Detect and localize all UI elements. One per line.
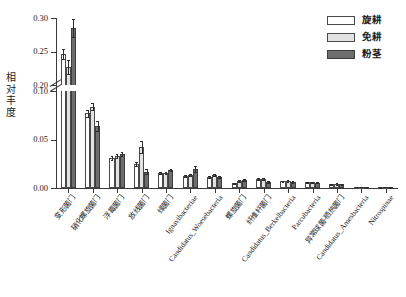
error-bar-cap bbox=[111, 160, 114, 161]
legend-label: 免耕 bbox=[362, 32, 382, 42]
bar bbox=[168, 170, 173, 188]
y-tick-label: 0.00 bbox=[3, 184, 48, 193]
error-bar-cap bbox=[96, 121, 99, 122]
y-tick bbox=[51, 188, 56, 189]
x-tick bbox=[239, 189, 240, 193]
error-bar-cap bbox=[257, 178, 260, 179]
x-tick-label: 绿菌门 bbox=[156, 194, 175, 215]
legend-item: 旋耕 bbox=[327, 13, 401, 27]
error-bar-cap bbox=[389, 188, 392, 189]
legend-item: 免耕 bbox=[327, 30, 401, 44]
legend-item: 粉茎 bbox=[327, 47, 401, 61]
error-bar-cap bbox=[292, 183, 295, 184]
error-bar-cap bbox=[140, 153, 143, 154]
error-bar-cap bbox=[86, 110, 89, 111]
error-bar-cap bbox=[62, 59, 65, 60]
error-bar-cap bbox=[311, 183, 314, 184]
x-tick bbox=[288, 189, 289, 193]
y-axis-line bbox=[56, 18, 57, 188]
bar-chart: 相对丰度 0.000.050.100.200.250.30 变形菌门硝化螺旋菌门… bbox=[0, 0, 406, 297]
error-bar bbox=[98, 121, 99, 132]
error-bar-cap bbox=[67, 74, 70, 75]
y-tick bbox=[51, 52, 56, 53]
error-bar bbox=[195, 166, 196, 173]
bar bbox=[120, 154, 125, 188]
error-bar-cap bbox=[135, 162, 138, 163]
y-axis-title: 相对丰度 bbox=[4, 72, 18, 118]
x-tick bbox=[93, 189, 94, 193]
error-bar-cap bbox=[165, 174, 168, 175]
error-bar-cap bbox=[287, 182, 290, 183]
error-bar-cap bbox=[72, 19, 75, 20]
error-bar-cap bbox=[159, 174, 162, 175]
error-bar-cap bbox=[194, 172, 197, 173]
x-tick bbox=[313, 189, 314, 193]
y-tick-label: 0.05 bbox=[3, 135, 48, 144]
x-tick bbox=[215, 189, 216, 193]
y-tick-label: 0.30 bbox=[3, 14, 48, 23]
error-bar bbox=[68, 60, 69, 75]
y-tick bbox=[51, 91, 56, 92]
y-tick-label: 0.20 bbox=[3, 81, 48, 90]
bar bbox=[71, 91, 76, 188]
x-tick-label: 螺旋菌门 bbox=[225, 194, 249, 221]
error-bar-cap bbox=[121, 152, 124, 153]
error-bar-cap bbox=[189, 176, 192, 177]
error-bar-cap bbox=[170, 171, 173, 172]
error-bar bbox=[73, 19, 74, 37]
error-bar-cap bbox=[189, 174, 192, 175]
error-bar-cap bbox=[135, 166, 138, 167]
error-bar-cap bbox=[184, 175, 187, 176]
error-bar-cap bbox=[165, 172, 168, 173]
error-bar bbox=[88, 110, 89, 117]
error-bar-cap bbox=[121, 156, 124, 157]
error-bar-cap bbox=[170, 169, 173, 170]
error-bar-cap bbox=[379, 188, 382, 189]
x-tick bbox=[386, 189, 387, 193]
x-tick bbox=[264, 189, 265, 193]
x-tick-label: 变形菌门 bbox=[54, 194, 78, 221]
error-bar-cap bbox=[91, 110, 94, 111]
error-bar-cap bbox=[233, 184, 236, 185]
error-bar-cap bbox=[208, 178, 211, 179]
error-bar-cap bbox=[365, 187, 368, 188]
error-bar-cap bbox=[208, 176, 211, 177]
legend-label: 粉茎 bbox=[362, 49, 382, 59]
legend-swatch-icon bbox=[327, 33, 355, 42]
x-axis-line bbox=[56, 188, 398, 189]
error-bar bbox=[142, 141, 143, 153]
x-tick-label: 浮霉菌门 bbox=[103, 194, 127, 221]
error-bar-cap bbox=[145, 174, 148, 175]
error-bar-cap bbox=[218, 178, 221, 179]
error-bar-cap bbox=[306, 183, 309, 184]
x-tick bbox=[68, 189, 69, 193]
error-bar-cap bbox=[111, 156, 114, 157]
error-bar-cap bbox=[72, 37, 75, 38]
error-bar-cap bbox=[282, 182, 285, 183]
error-bar-cap bbox=[194, 166, 197, 167]
error-bar-cap bbox=[67, 60, 70, 61]
error-bar-cap bbox=[316, 183, 319, 184]
x-tick-label: Nitrospinae bbox=[367, 194, 395, 227]
error-bar-cap bbox=[238, 182, 241, 183]
error-bar-cap bbox=[184, 177, 187, 178]
error-bar-cap bbox=[62, 49, 65, 50]
y-tick bbox=[51, 18, 56, 19]
error-bar-cap bbox=[257, 180, 260, 181]
x-tick bbox=[361, 189, 362, 193]
y-tick-label: 0.25 bbox=[3, 47, 48, 56]
error-bar-cap bbox=[262, 180, 265, 181]
error-bar-cap bbox=[267, 183, 270, 184]
error-bar-cap bbox=[91, 103, 94, 104]
x-tick bbox=[117, 189, 118, 193]
error-bar-cap bbox=[213, 174, 216, 175]
error-bar-cap bbox=[116, 154, 119, 155]
x-tick bbox=[190, 189, 191, 193]
error-bar bbox=[63, 49, 64, 59]
legend-swatch-icon bbox=[327, 16, 355, 25]
error-bar-cap bbox=[243, 181, 246, 182]
legend-swatch-icon bbox=[327, 50, 355, 59]
error-bar-cap bbox=[86, 117, 89, 118]
error-bar-cap bbox=[384, 187, 387, 188]
error-bar-cap bbox=[116, 158, 119, 159]
